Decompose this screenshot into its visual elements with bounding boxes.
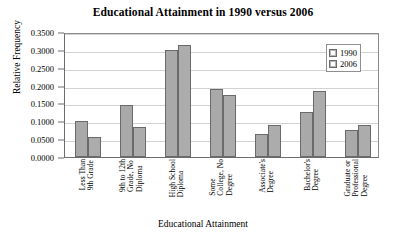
bar <box>133 127 146 157</box>
bar <box>210 89 223 157</box>
x-tick-label: High SchoolDiploma <box>154 159 199 217</box>
x-tick-label-text: SomeCollege, NoDegree <box>209 159 234 196</box>
x-tick-label-text: Graduate orProfessionalDegree <box>344 159 369 197</box>
legend-item: 2006 <box>329 58 357 69</box>
bar <box>345 130 358 157</box>
bar <box>88 137 101 157</box>
bar <box>313 91 326 157</box>
x-tick-label-text: 9th to 12thGrade, NoDiploma <box>119 159 144 192</box>
x-tick-label: 9th to 12thGrade, NoDiploma <box>109 159 154 217</box>
y-tick-label: 0.0500 <box>31 135 54 145</box>
chart-figure: Educational Attainment in 1990 versus 20… <box>0 0 406 239</box>
y-tick-label: 0.3000 <box>31 46 54 56</box>
x-tick-label-text: High SchoolDiploma <box>168 159 185 197</box>
bar <box>178 45 191 158</box>
x-axis: Less Than9th Grade9th to 12thGrade, NoDi… <box>64 159 379 217</box>
y-tick-label: 0.2500 <box>31 64 54 74</box>
legend-label: 1990 <box>340 48 357 58</box>
y-tick-label: 0.2000 <box>31 82 54 92</box>
x-tick-label: SomeCollege, NoDegree <box>199 159 244 217</box>
y-tick-label: 0.1500 <box>31 99 54 109</box>
legend-swatch-icon <box>329 60 337 68</box>
bar <box>223 95 236 158</box>
bar <box>120 105 133 157</box>
x-tick-label: Less Than9th Grade <box>64 159 109 217</box>
bar <box>358 125 371 157</box>
bar <box>300 112 313 157</box>
x-tick-label: Graduate orProfessionalDegree <box>334 159 379 217</box>
bar <box>75 121 88 157</box>
bar <box>255 134 268 157</box>
legend-label: 2006 <box>340 59 357 69</box>
y-tick-label: 0.1000 <box>31 117 54 127</box>
legend-item: 1990 <box>329 47 357 58</box>
x-axis-title: Educational Attainment <box>0 219 406 229</box>
x-tick-label: Associate'sDegree <box>244 159 289 217</box>
y-axis-title: Relative Frequency <box>12 0 22 122</box>
x-tick-label-text: Associate'sDegree <box>258 159 275 193</box>
y-tick-label: 0.0000 <box>31 153 54 163</box>
x-tick-label-text: Bachelor'sDegree <box>303 159 320 191</box>
y-tick-label: 0.3500 <box>31 28 54 38</box>
x-tick-label: Bachelor'sDegree <box>289 159 334 217</box>
legend-swatch-icon <box>329 49 337 57</box>
y-axis: 0.35000.30000.25000.20000.15000.10000.05… <box>0 33 62 158</box>
gridline <box>65 34 378 35</box>
chart-title: Educational Attainment in 1990 versus 20… <box>0 6 406 18</box>
bar <box>268 125 281 157</box>
x-tick-label-text: Less Than9th Grade <box>78 159 95 190</box>
bar <box>165 50 178 157</box>
chart-legend: 19902006 <box>326 44 361 72</box>
